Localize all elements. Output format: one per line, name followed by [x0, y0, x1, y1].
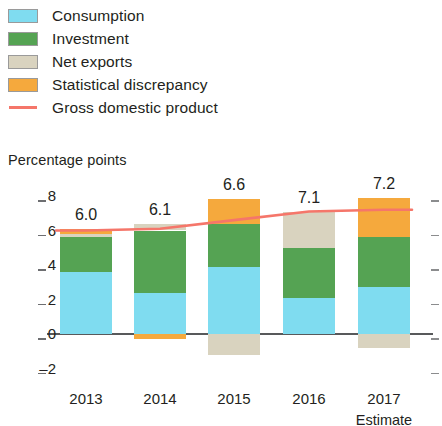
- legend-swatch-icon-consumption: [8, 9, 38, 23]
- y-axis-title: Percentage points: [8, 152, 127, 168]
- bar-segment-netexports: [358, 334, 410, 348]
- legend-item-investment: Investment: [8, 27, 438, 50]
- bar-segment-discrepancy: [60, 229, 112, 234]
- chart-legend: Consumption Investment Net exports Stati…: [8, 4, 438, 119]
- y-axis-tick-mark-right: [431, 200, 439, 202]
- y-axis-tick-mark-right: [431, 338, 439, 340]
- y-axis-tick-mark: [38, 269, 46, 271]
- bar-segment-consumption: [208, 267, 260, 334]
- bar-segment-consumption: [358, 287, 410, 334]
- x-axis-label-2015: 2015: [208, 391, 260, 406]
- legend-item-consumption: Consumption: [8, 4, 438, 27]
- y-axis-tick-mark: [38, 373, 46, 375]
- legend-swatch-icon-net-exports: [8, 55, 38, 69]
- bar-segment-investment: [283, 248, 335, 298]
- bar-value-label: 7.1: [283, 190, 335, 206]
- bar-segment-netexports: [283, 212, 335, 248]
- legend-label-statistical-discrepancy: Statistical discrepancy: [52, 77, 208, 93]
- legend-label-consumption: Consumption: [52, 8, 144, 24]
- bar-value-label: 6.6: [208, 177, 260, 193]
- y-axis-tick-mark: [38, 235, 46, 237]
- y-axis-tick-label: 8: [48, 188, 56, 203]
- y-axis-tick-label: 0: [48, 326, 56, 341]
- y-axis-tick-mark-right: [431, 373, 439, 375]
- y-axis-tick-mark-right: [431, 235, 439, 237]
- bar-segment-discrepancy: [358, 198, 410, 238]
- bar-segment-netexports: [134, 224, 186, 230]
- y-axis-tick-label: 2: [48, 292, 56, 307]
- bar-segment-consumption: [283, 298, 335, 334]
- bar-value-label: 6.0: [60, 207, 112, 223]
- legend-item-gross-domestic-product: Gross domestic product: [8, 96, 438, 119]
- bar-segment-discrepancy: [208, 199, 260, 223]
- bar-segment-investment: [134, 231, 186, 293]
- chart-plot-area: 86420–2 6.06.16.67.17.2 2013201420152016…: [0, 178, 442, 426]
- bar-segment-investment: [60, 237, 112, 272]
- y-axis-tick-mark: [38, 338, 46, 340]
- legend-swatch-icon-statistical-discrepancy: [8, 78, 38, 92]
- legend-line-icon-gross-domestic-product: [8, 101, 38, 115]
- x-axis-label-2013: 2013: [60, 391, 112, 406]
- bar-value-label: 6.1: [134, 202, 186, 218]
- bar-2015: [208, 178, 260, 426]
- x-axis-label-2017: 2017: [358, 391, 410, 406]
- bar-segment-discrepancy: [134, 334, 186, 339]
- y-axis-tick-mark-right: [431, 269, 439, 271]
- legend-item-statistical-discrepancy: Statistical discrepancy: [8, 73, 438, 96]
- bar-2016: [283, 178, 335, 426]
- bar-2017: [358, 178, 410, 426]
- legend-label-gross-domestic-product: Gross domestic product: [52, 100, 218, 116]
- bar-segment-investment: [208, 224, 260, 267]
- x-axis-label-2016: 2016: [283, 391, 335, 406]
- legend-item-net-exports: Net exports: [8, 50, 438, 73]
- y-axis-tick-label: 4: [48, 257, 56, 272]
- bar-segment-consumption: [134, 293, 186, 334]
- y-axis-tick-label: 6: [48, 223, 56, 238]
- estimate-note: Estimate: [351, 413, 417, 426]
- bar-segment-netexports: [208, 334, 260, 355]
- bar-segment-consumption: [60, 272, 112, 334]
- bar-segment-netexports: [60, 234, 112, 237]
- legend-swatch-icon-investment: [8, 32, 38, 46]
- y-axis-tick-mark: [38, 304, 46, 306]
- legend-label-investment: Investment: [52, 31, 129, 47]
- bar-value-label: 7.2: [358, 176, 410, 192]
- y-axis-tick-mark-right: [431, 304, 439, 306]
- bar-segment-investment: [358, 237, 410, 287]
- y-axis-tick-mark: [38, 200, 46, 202]
- x-axis-label-2014: 2014: [134, 391, 186, 406]
- legend-label-net-exports: Net exports: [52, 54, 132, 70]
